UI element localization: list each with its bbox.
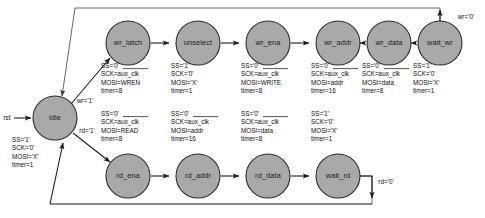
action-line-idle-1: SCK='0'	[12, 144, 35, 151]
action-line-rd_data-0: SS='0'	[241, 110, 259, 117]
action-line-wr_latch-2: MOSI=WREN	[101, 79, 140, 86]
state-actions-wait_wr: SS='1'SCK='0'MOSI='X'timer=1	[413, 62, 439, 95]
action-line-wait_wr-0: SS='1'	[413, 62, 431, 69]
reset-arrow: rst	[3, 114, 31, 121]
action-line-unselect-3: timer=1	[171, 87, 193, 94]
state-node-rd_addr[interactable]: rd_addr	[176, 154, 220, 198]
edge-label-rd-0: rd='0'	[378, 178, 393, 185]
state-actions-rd_ena: SS='0'SCK=aux_clkMOSI=READtimer=8	[101, 110, 148, 143]
state-actions-idle: SS='1'SCK='0'MOSI='X'timer=1	[12, 136, 38, 169]
action-line-wait_rd-1: SCK='0'	[311, 118, 334, 125]
edge-path-bottom-to-idle	[50, 143, 63, 204]
state-node-idle[interactable]: idle	[33, 96, 77, 140]
state-actions-rd_data: SS='0'SCK=aux_clkMOSI=datatimer=8	[241, 110, 288, 143]
action-line-idle-3: timer=1	[12, 161, 34, 168]
action-line-wait_rd-2: MOSI='X'	[311, 127, 337, 134]
state-node-wr_data[interactable]: wr_data	[367, 21, 411, 65]
state-actions-wait_rd: SS='1'SCK='0'MOSI='X'timer=1	[311, 110, 337, 143]
action-line-rd_ena-1: SCK=aux_clk	[101, 118, 140, 126]
action-line-wait_wr-2: MOSI='X'	[413, 79, 439, 86]
action-line-rd_addr-0: SS='0'	[171, 110, 189, 117]
state-node-rd_data[interactable]: rd_data	[246, 154, 290, 198]
state-label-idle: idle	[49, 113, 61, 122]
state-label-unselect: unselect	[184, 38, 212, 47]
state-node-wr_ena[interactable]: wr_ena	[246, 21, 290, 65]
state-label-rd_ena: rd_ena	[116, 171, 140, 180]
state-node-wait_rd[interactable]: wait_rd	[316, 154, 360, 198]
action-line-idle-2: MOSI='X'	[12, 153, 38, 160]
state-node-rd_ena[interactable]: rd_ena	[106, 154, 150, 198]
action-line-wait_rd-0: SS='1'	[311, 110, 329, 117]
action-line-rd_addr-1: SCK=aux_clk	[171, 118, 210, 126]
state-diagram-canvas: wr='0' rd='0' rst wr='1' rd='1'	[0, 0, 485, 218]
state-label-rd_data: rd_data	[255, 171, 282, 180]
action-line-rd_data-3: timer=8	[241, 135, 263, 142]
state-label-wr_latch: wr_latch	[113, 38, 142, 47]
action-line-rd_ena-3: timer=8	[101, 135, 123, 142]
edge-label-rd-1: rd='1'	[79, 127, 94, 134]
action-line-wr_addr-1: SCK=aux_clk	[311, 70, 350, 78]
action-line-wr_ena-2: MOSI=WRITE	[241, 79, 281, 86]
action-line-wr_addr-0: SS='0'	[311, 62, 329, 69]
action-line-wr_data-1: SCK=aux_clk	[362, 70, 401, 78]
edge-arrowhead-wait_rd-down	[360, 176, 372, 198]
state-actions-wr_data: SS='0'SCK=aux_clkMOSI=datatimer=8	[362, 62, 409, 95]
action-line-rd_ena-0: SS='0'	[101, 110, 119, 117]
action-line-rd_ena-2: MOSI=READ	[101, 127, 139, 134]
state-actions-wr_addr: SS='0'SCK=aux_clkMOSI=addrtimer=16	[311, 62, 358, 95]
state-label-wr_addr: wr_addr	[323, 38, 352, 47]
state-machine-diagram: wr='0' rd='0' rst wr='1' rd='1'	[0, 0, 485, 218]
action-line-wait_rd-3: timer=1	[311, 135, 333, 142]
state-actions-wr_latch: SS='0'SCK=aux_clkMOSI=WRENtimer=8	[101, 62, 148, 95]
action-line-wr_data-2: MOSI=data	[362, 79, 395, 86]
action-line-wr_data-3: timer=8	[362, 87, 384, 94]
action-line-rd_data-2: MOSI=data	[241, 127, 274, 134]
action-line-unselect-1: SCK='0'	[171, 70, 194, 77]
state-label-wait_wr: wait_wr	[426, 38, 453, 47]
action-line-wr_latch-3: timer=8	[101, 87, 123, 94]
action-line-wr_ena-0: SS='0'	[241, 62, 259, 69]
state-label-wr_data: wr_data	[375, 38, 404, 47]
state-label-wr_ena: wr_ena	[255, 38, 282, 47]
state-node-wr_latch[interactable]: wr_latch	[106, 21, 150, 65]
action-line-wr_addr-3: timer=16	[311, 87, 336, 94]
state-label-rd_addr: rd_addr	[185, 171, 212, 180]
action-line-wr_data-0: SS='0'	[362, 62, 380, 69]
action-line-wr_latch-0: SS='0'	[101, 62, 119, 69]
edge-label-wr-1: wr='1'	[76, 97, 93, 104]
edge-label-wr-0: wr='0'	[457, 13, 474, 20]
state-actions-unselect: SS='1'SCK='0'MOSI='X'timer=1	[171, 62, 197, 95]
action-line-rd_addr-3: timer=16	[171, 135, 196, 142]
action-line-wait_wr-1: SCK='0'	[413, 70, 436, 77]
state-actions-wr_ena: SS='0'SCK=aux_clkMOSI=WRITEtimer=8	[241, 62, 288, 95]
action-line-wr_addr-2: MOSI=addr	[311, 79, 343, 86]
action-line-wait_wr-3: timer=1	[413, 87, 435, 94]
state-actions-rd_addr: SS='0'SCK=aux_clkMOSI=addrtimer=16	[171, 110, 218, 143]
action-line-idle-0: SS='1'	[12, 136, 30, 143]
state-label-wait_rd: wait_rd	[325, 171, 351, 180]
action-line-rd_data-1: SCK=aux_clk	[241, 118, 280, 126]
action-line-wr_ena-3: timer=8	[241, 87, 263, 94]
reset-label: rst	[3, 114, 10, 121]
state-node-wr_addr[interactable]: wr_addr	[316, 21, 360, 65]
state-node-wait_wr[interactable]: wait_wr	[418, 21, 462, 65]
action-line-wr_ena-1: SCK=aux_clk	[241, 70, 280, 78]
action-line-unselect-2: MOSI='X'	[171, 79, 197, 86]
action-line-rd_addr-2: MOSI=addr	[171, 127, 203, 134]
action-line-wr_latch-1: SCK=aux_clk	[101, 70, 140, 78]
action-line-unselect-0: SS='1'	[171, 62, 189, 69]
state-node-unselect[interactable]: unselect	[176, 21, 220, 65]
